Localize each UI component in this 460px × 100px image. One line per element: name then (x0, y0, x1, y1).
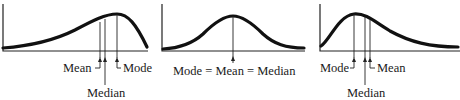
distribution-curve (163, 16, 304, 49)
skewness-diagram: Mean Mode Median Mode = Mean = Median Mo… (0, 0, 460, 100)
panel-right-skewed: Mode Mean Median (320, 4, 460, 100)
distribution-curve (3, 14, 147, 48)
median-arrow (363, 57, 367, 62)
distribution-curve (321, 14, 458, 47)
mean-leader (370, 62, 375, 68)
mean-arrow (368, 57, 372, 62)
mode-arrow (352, 57, 356, 62)
axes (320, 4, 460, 51)
mean-label: Mean (63, 61, 92, 75)
mean-label: Mean (377, 61, 406, 75)
median-arrow (103, 57, 107, 62)
mode-label: Mode (320, 61, 350, 75)
center-arrow (231, 56, 235, 61)
mode-mean-median-label: Mode = Mean = Median (173, 64, 296, 78)
mean-leader (95, 62, 100, 68)
median-label: Median (347, 86, 386, 100)
mean-arrow (98, 57, 102, 62)
median-label: Median (87, 86, 126, 100)
panel-left-skewed: Mean Mode Median (3, 4, 153, 100)
mode-leader (117, 62, 121, 68)
mode-label: Mode (123, 61, 153, 75)
panel-symmetric: Mode = Mean = Median (162, 4, 305, 78)
mode-arrow (115, 57, 119, 62)
mode-leader (350, 62, 354, 68)
